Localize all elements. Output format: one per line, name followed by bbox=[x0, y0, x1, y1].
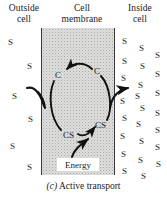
cell-membrane-band bbox=[41, 28, 115, 175]
active-transport-figure: Outside cell Cell membrane Inside cell S… bbox=[0, 0, 167, 198]
solute-inside-8: S bbox=[155, 89, 160, 98]
solute-inside-17: S bbox=[139, 137, 144, 146]
header-inside-line1: Inside bbox=[118, 3, 162, 14]
solute-outside-1: S bbox=[27, 62, 32, 71]
solute-inside-12: S bbox=[155, 109, 160, 118]
solute-outside-0: S bbox=[8, 38, 13, 47]
solute-inside-5: S bbox=[155, 70, 160, 79]
solute-outside-3: S bbox=[28, 115, 33, 124]
solute-outside-2: S bbox=[12, 92, 17, 101]
solute-inside-18: S bbox=[155, 143, 160, 152]
header-outside-cell: Outside cell bbox=[2, 3, 46, 24]
solute-inside-15: S bbox=[155, 126, 160, 135]
header-outside-line2: cell bbox=[2, 14, 46, 25]
solute-inside-23: S bbox=[141, 172, 146, 181]
solute-inside-7: S bbox=[138, 81, 143, 90]
header-inside-cell: Inside cell bbox=[118, 3, 162, 24]
solute-inside-11: S bbox=[140, 104, 145, 113]
solute-inside-10: S bbox=[120, 97, 125, 106]
header-membrane-line1: Cell bbox=[53, 3, 111, 14]
solute-inside-20: S bbox=[138, 156, 143, 165]
header-cell-membrane: Cell membrane bbox=[53, 3, 111, 24]
solute-inside-3: S bbox=[122, 57, 127, 66]
caption-letter: (c) bbox=[47, 181, 58, 191]
solute-inside-6: S bbox=[121, 74, 126, 83]
figure-caption: (c) Active transport bbox=[0, 181, 167, 191]
carrier-top-left: C bbox=[55, 71, 61, 80]
solute-inside-13: S bbox=[122, 114, 127, 123]
solute-inside-19: S bbox=[121, 150, 126, 159]
carrier-substrate-bottom-left: CS bbox=[63, 131, 74, 140]
header-inside-line2: cell bbox=[118, 14, 162, 25]
solute-inside-22: S bbox=[122, 167, 127, 176]
solute-inside-21: S bbox=[156, 160, 161, 169]
solute-outside-4: S bbox=[10, 142, 15, 151]
solute-inside-9: S bbox=[135, 92, 140, 101]
caption-text: Active transport bbox=[59, 181, 120, 191]
solute-outside-5: S bbox=[27, 163, 32, 172]
carrier-top-right: C bbox=[94, 67, 100, 76]
header-outside-line1: Outside bbox=[2, 3, 46, 14]
solute-inside-16: S bbox=[120, 132, 125, 141]
solute-inside-14: S bbox=[136, 120, 141, 129]
solute-inside-4: S bbox=[140, 62, 145, 71]
solute-inside-0: S bbox=[122, 37, 127, 46]
energy-label-box: Energy bbox=[57, 158, 99, 171]
carrier-substrate-bottom-right: CS bbox=[95, 121, 106, 130]
energy-label: Energy bbox=[65, 160, 91, 170]
header-membrane-line2: membrane bbox=[53, 14, 111, 25]
solute-inside-1: S bbox=[139, 44, 144, 53]
solute-inside-2: S bbox=[155, 51, 160, 60]
